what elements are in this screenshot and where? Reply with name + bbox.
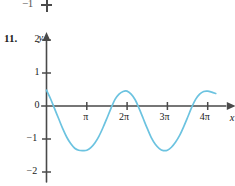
- y-tick-label: −1: [27, 132, 38, 143]
- y-tick-label: 0: [35, 99, 40, 110]
- plot-area: 210−1−2π2π3π4πyx: [0, 0, 235, 186]
- figure-11: −1 11. 210−1−2π2π3π4πyx: [0, 0, 235, 186]
- x-tick-label: 3π: [159, 111, 169, 122]
- x-tick-label: π: [83, 111, 88, 122]
- sinusoid-curve: [47, 90, 216, 151]
- x-tick-label: 4π: [200, 111, 210, 122]
- graph-svg: [0, 0, 235, 186]
- y-axis-label: y: [39, 32, 44, 43]
- y-tick-label: 1: [35, 66, 40, 77]
- x-tick-label: 2π: [119, 111, 129, 122]
- y-tick-label: −2: [27, 165, 38, 176]
- x-axis-arrowhead: [227, 102, 235, 110]
- x-axis-label: x: [230, 112, 235, 123]
